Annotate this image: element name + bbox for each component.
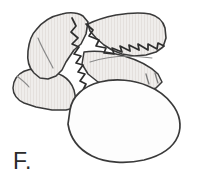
figure-panel: F. xyxy=(0,0,199,179)
panel-label: F. xyxy=(13,150,32,173)
